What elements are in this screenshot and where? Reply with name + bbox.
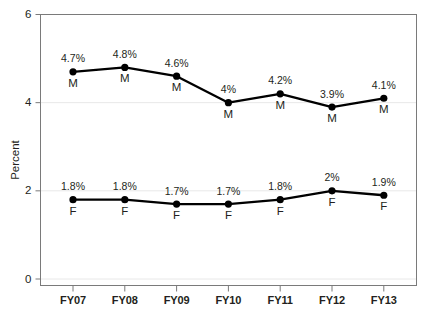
data-point-M-FY07: [69, 68, 76, 75]
data-point-F-FY09: [173, 200, 180, 207]
series-point-label-M-FY07: M: [68, 77, 78, 89]
series-point-label-M-FY08: M: [120, 72, 130, 84]
series-M: 4.7%M4.8%M4.6%M4%M4.2%M3.9%M4.1%M: [61, 48, 396, 124]
x-tick-label-FY09: FY09: [164, 294, 190, 306]
series-point-label-M-FY11: M: [275, 99, 285, 111]
data-point-M-FY13: [380, 95, 387, 102]
plot-frame: [41, 15, 417, 286]
series-point-label-F-FY10: F: [225, 209, 232, 221]
x-tick-label-FY10: FY10: [215, 294, 241, 306]
series-point-label-F-FY11: F: [277, 205, 284, 217]
data-point-F-FY11: [277, 196, 284, 203]
y-tick-label-2: 2: [25, 184, 31, 196]
data-label-F-FY09: 1.7%: [165, 185, 189, 197]
data-point-M-FY08: [121, 64, 128, 71]
data-point-F-FY10: [225, 200, 232, 207]
chart-canvas: 0246PercentFY07FY08FY09FY10FY11FY12FY134…: [0, 0, 431, 325]
x-tick-label-FY11: FY11: [268, 294, 293, 306]
data-label-M-FY13: 4.1%: [372, 79, 396, 91]
data-label-F-FY10: 1.7%: [216, 185, 240, 197]
data-point-M-FY12: [328, 103, 335, 110]
data-point-M-FY09: [173, 73, 180, 80]
data-label-F-FY12: 2%: [324, 171, 339, 183]
data-point-F-FY07: [69, 196, 76, 203]
data-label-F-FY13: 1.9%: [372, 176, 396, 188]
series-point-label-M-FY13: M: [379, 103, 389, 115]
data-point-F-FY08: [121, 196, 128, 203]
data-label-M-FY07: 4.7%: [61, 52, 85, 64]
data-label-M-FY08: 4.8%: [113, 48, 137, 60]
x-tick-label-FY13: FY13: [371, 294, 397, 306]
data-label-M-FY12: 3.9%: [320, 88, 344, 100]
series-point-label-F-FY12: F: [328, 196, 335, 208]
series-point-label-M-FY09: M: [172, 81, 182, 93]
y-tick-label-4: 4: [25, 96, 32, 108]
series-point-label-F-FY13: F: [380, 200, 387, 212]
gridlines: [41, 15, 417, 280]
x-tick-label-FY12: FY12: [319, 294, 345, 306]
x-tick-label-FY08: FY08: [112, 294, 138, 306]
data-point-F-FY12: [328, 187, 335, 194]
data-label-M-FY10: 4%: [221, 83, 236, 95]
x-axis: FY07FY08FY09FY10FY11FY12FY13: [60, 286, 397, 306]
series-point-label-F-FY09: F: [173, 209, 180, 221]
data-point-M-FY10: [225, 99, 232, 106]
series-point-label-M-FY10: M: [224, 108, 234, 120]
series-point-label-F-FY07: F: [69, 205, 76, 217]
y-axis-title: Percent: [9, 139, 21, 179]
data-point-M-FY11: [277, 90, 284, 97]
y-tick-label-0: 0: [25, 273, 31, 285]
data-label-M-FY11: 4.2%: [268, 74, 292, 86]
y-axis: 0246: [25, 8, 40, 285]
data-label-F-FY08: 1.8%: [113, 180, 137, 192]
data-point-F-FY13: [380, 192, 387, 199]
line-chart: 0246PercentFY07FY08FY09FY10FY11FY12FY134…: [0, 0, 431, 325]
data-label-F-FY07: 1.8%: [61, 180, 85, 192]
series-F: 1.8%F1.8%F1.7%F1.7%F1.8%F2%F1.9%F: [61, 171, 396, 221]
data-label-F-FY11: 1.8%: [268, 180, 292, 192]
x-tick-label-FY07: FY07: [60, 294, 86, 306]
y-tick-label-6: 6: [25, 8, 31, 20]
data-label-M-FY09: 4.6%: [165, 57, 189, 69]
series-point-label-F-FY08: F: [121, 205, 128, 217]
series-point-label-M-FY12: M: [327, 112, 337, 124]
